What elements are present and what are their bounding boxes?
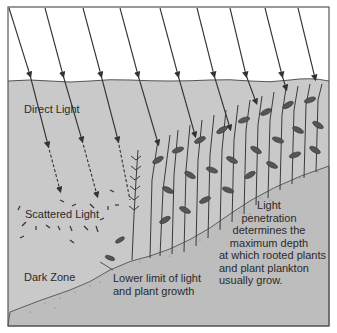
label-direct-light: Direct Light — [24, 103, 80, 116]
label-penetration-line5: at which rooted plants — [219, 249, 326, 262]
label-penetration-line3: determines the — [218, 224, 320, 237]
label-penetration-line1: Light — [218, 199, 320, 212]
label-lower-limit-line2: and plant growth — [113, 285, 201, 298]
label-lower-limit-line1: Lower limit of light — [113, 272, 201, 285]
label-light-penetration-cont: at which rooted plants and plant plankto… — [219, 249, 326, 287]
label-penetration-line7: usually grow. — [219, 274, 326, 287]
label-penetration-line4: maximum depth — [218, 237, 320, 250]
label-penetration-line6: and plant plankton — [219, 262, 326, 275]
label-dark-zone: Dark Zone — [24, 271, 75, 284]
label-scattered-light: Scattered Light — [25, 208, 99, 221]
label-penetration-line2: penetration — [218, 212, 320, 225]
label-light-penetration: Light penetration determines the maximum… — [218, 199, 320, 249]
label-lower-limit: Lower limit of light and plant growth — [113, 272, 201, 297]
